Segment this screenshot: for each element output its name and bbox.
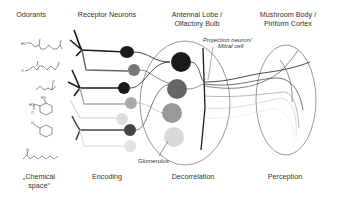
projection-axons xyxy=(205,50,310,140)
label-ho-1: HO xyxy=(21,42,27,46)
glomerulus-pointer xyxy=(159,141,168,156)
label-ho-4: HO xyxy=(29,103,35,107)
projection-neuron-dendrite xyxy=(201,48,205,150)
label-ho-4b: HO xyxy=(41,96,47,100)
glomerulus-4 xyxy=(164,127,184,147)
label-o-5: O xyxy=(31,121,34,125)
label-o-4: O xyxy=(31,111,34,115)
olfaction-diagram: HO O O HO HO O O O xyxy=(0,0,339,204)
molecule-geraniol xyxy=(27,39,62,49)
molecule-citral xyxy=(25,61,59,71)
label-o-3: O xyxy=(52,80,55,84)
molecule-salicylic-acid xyxy=(34,99,52,115)
receptor-neuron-3 xyxy=(68,62,170,96)
label-o-6: O xyxy=(26,148,29,152)
molecule-ethyl-acetate xyxy=(36,83,56,90)
glomerulus-2 xyxy=(167,79,187,99)
glomerulus-1 xyxy=(171,52,191,72)
glomerulus-3 xyxy=(162,103,182,123)
label-o-2: O xyxy=(21,69,24,73)
molecule-benzaldehyde xyxy=(33,123,52,137)
